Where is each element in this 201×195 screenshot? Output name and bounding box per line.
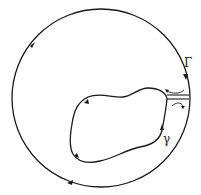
contour-diagram: Γ γ [0,0,201,195]
label-outer-gamma: Γ [184,56,192,70]
inner-contour-gamma [70,88,167,162]
cut-arrowhead-upper [165,89,169,93]
inner-arrowhead-top [84,99,89,104]
cut-arrow-upper [167,90,184,93]
cut-arrow-lower [172,103,183,106]
label-inner-gamma: γ [163,132,170,146]
cut-arrowhead-lower [181,106,185,109]
